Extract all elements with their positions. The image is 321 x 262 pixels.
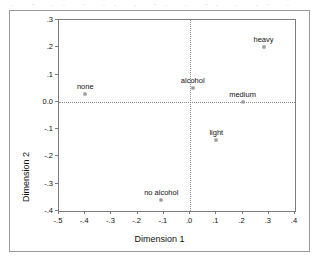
data-point-label: no alcohol xyxy=(144,189,178,197)
data-point-marker[interactable] xyxy=(84,92,87,95)
y-axis-title: Dimension 2 xyxy=(21,152,31,202)
data-point-marker[interactable] xyxy=(262,46,265,49)
y-axis-tick xyxy=(55,128,58,129)
x-axis-tick-label: -.4 xyxy=(80,216,89,225)
x-axis-tick-label: .2 xyxy=(238,216,244,225)
y-axis-tick-label: -.4 xyxy=(44,206,53,215)
data-point-marker[interactable] xyxy=(191,87,194,90)
data-point-label: light xyxy=(209,129,223,137)
x-axis-tick xyxy=(84,211,85,214)
x-axis-tick xyxy=(294,211,295,214)
y-axis-tick xyxy=(55,74,58,75)
scan-artifact-mark: - xyxy=(32,0,34,8)
reference-line-horizontal xyxy=(59,102,295,103)
y-axis-tick-label: -.3 xyxy=(44,178,53,187)
x-axis-tick-label: .3 xyxy=(265,216,271,225)
y-axis-tick xyxy=(55,46,58,47)
scan-artifact-mark: . xyxy=(256,0,258,8)
scan-artifact-mark: . xyxy=(63,0,65,8)
scan-artifact-mark: . xyxy=(185,0,187,8)
x-axis-tick xyxy=(137,211,138,214)
scan-artifact-mark: . xyxy=(216,0,218,8)
y-axis-tick-label: -.1 xyxy=(44,124,53,133)
scan-artifact-mark: . xyxy=(103,0,105,8)
x-axis-tick xyxy=(110,211,111,214)
y-axis-tick-label: 0.0 xyxy=(43,96,53,105)
scan-artifact-mark: - xyxy=(205,0,207,8)
x-axis-tick xyxy=(58,211,59,214)
x-axis-tick xyxy=(189,211,190,214)
scan-artifact-strip: .-..-...-..-...-. xyxy=(0,0,321,8)
y-axis-tick-label: .3 xyxy=(47,15,53,24)
scan-artifact-mark: - xyxy=(83,0,85,8)
scan-artifact-mark: . xyxy=(114,0,116,8)
data-point-label: none xyxy=(77,83,94,91)
y-axis-tick-label: .2 xyxy=(47,42,53,51)
scan-artifact-mark: . xyxy=(134,0,136,8)
x-axis-tick-label: .4 xyxy=(291,216,297,225)
x-axis-tick-label: -.3 xyxy=(106,216,115,225)
x-axis-tick-label: .1 xyxy=(212,216,218,225)
y-axis-tick xyxy=(55,210,58,211)
data-point-marker[interactable] xyxy=(215,139,218,142)
y-axis-tick xyxy=(55,183,58,184)
x-axis-title: Dimension 1 xyxy=(10,234,309,244)
x-axis-tick-label: -.1 xyxy=(158,216,167,225)
scan-artifact-mark: . xyxy=(165,0,167,8)
chart-figure: nonealcoholheavymediumlightno alcohol Di… xyxy=(9,10,310,252)
y-axis-tick xyxy=(55,19,58,20)
x-axis-tick xyxy=(242,211,243,214)
data-point-label: medium xyxy=(229,91,256,99)
x-axis-tick xyxy=(163,211,164,214)
scan-artifact-mark: - xyxy=(267,0,269,8)
scan-artifact-mark: . xyxy=(12,0,14,8)
data-point-label: alcohol xyxy=(181,77,205,85)
data-point-label: heavy xyxy=(254,36,274,44)
reference-line-vertical xyxy=(190,20,191,211)
y-axis-tick-label: .1 xyxy=(47,69,53,78)
data-point-marker[interactable] xyxy=(160,199,163,202)
scan-artifact-mark: . xyxy=(287,0,289,8)
x-axis-tick-label: -.2 xyxy=(132,216,141,225)
y-axis-tick xyxy=(55,155,58,156)
y-axis-tick-label: -.2 xyxy=(44,151,53,160)
x-axis-tick xyxy=(215,211,216,214)
scan-artifact-mark: . xyxy=(236,0,238,8)
x-axis-tick-label: .0 xyxy=(186,216,192,225)
plot-area: nonealcoholheavymediumlightno alcohol xyxy=(58,19,296,212)
scan-artifact-mark: . xyxy=(52,0,54,8)
y-axis-tick xyxy=(55,101,58,102)
data-point-marker[interactable] xyxy=(241,100,244,103)
scan-artifact-mark: - xyxy=(154,0,156,8)
x-axis-tick xyxy=(268,211,269,214)
x-axis-tick-label: -.5 xyxy=(54,216,63,225)
